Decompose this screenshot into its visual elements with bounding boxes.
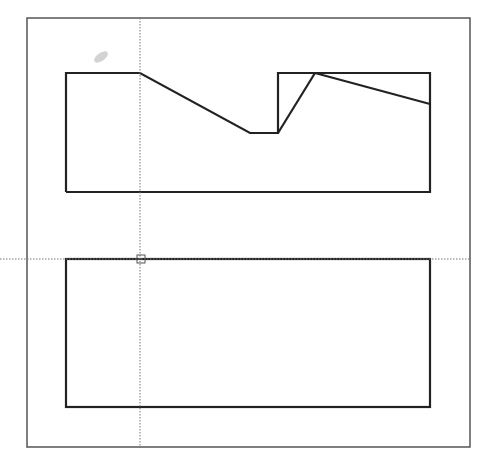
drawing-canvas[interactable] (0, 0, 493, 472)
bottom-rectangle-shape[interactable] (66, 259, 430, 407)
drawing-frame (27, 18, 470, 447)
top-profile-shape[interactable] (66, 73, 430, 192)
top-diagonal-left-line[interactable] (278, 73, 315, 133)
cad-viewport[interactable] (0, 0, 493, 472)
top-diagonal-right-line[interactable] (315, 73, 430, 104)
pencil-smudge-mark (92, 49, 110, 65)
